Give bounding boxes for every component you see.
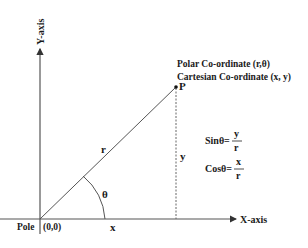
cartesian-coordinate-label: Cartesian Co-ordinate (x, y)	[177, 72, 291, 83]
y-length-label: y	[180, 150, 186, 162]
polar-cartesian-diagram: Y-axis X-axis P Polar Co-ordinate (r,θ) …	[0, 0, 308, 248]
y-axis-label: Y-axis	[35, 19, 46, 45]
cos-formula-numerator: x	[236, 156, 241, 167]
cos-formula-denominator: r	[236, 170, 241, 181]
radius-line	[40, 87, 176, 219]
radius-label: r	[101, 143, 106, 155]
pole-label: Pole	[17, 222, 34, 232]
cos-formula-lhs: Cosθ=	[205, 163, 232, 174]
sin-formula-denominator: r	[234, 142, 239, 153]
origin-label: (0,0)	[43, 222, 61, 233]
sin-formula-lhs: Sinθ=	[205, 135, 230, 146]
polar-coordinate-label: Polar Co-ordinate (r,θ)	[177, 59, 270, 70]
point-p-marker	[174, 85, 178, 89]
angle-label: θ	[102, 188, 108, 200]
x-axis-label: X-axis	[240, 214, 267, 225]
sin-formula-numerator: y	[234, 128, 239, 139]
x-length-label: x	[110, 221, 116, 233]
